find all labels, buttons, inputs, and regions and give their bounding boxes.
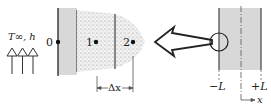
- node-2-label: 2: [123, 37, 130, 48]
- boundary-condition-label: T∞, h: [8, 32, 36, 42]
- magnify-arrow: [155, 27, 212, 56]
- node-1-label: 1: [86, 37, 93, 48]
- node-0-label: 0: [46, 37, 53, 48]
- wall-band: [58, 8, 77, 75]
- flow-arrows: [7, 48, 38, 74]
- diagram-canvas: T∞, h 0 1 2 Δx −L +L x: [0, 0, 271, 109]
- slab: [219, 8, 261, 70]
- plus-L-label: +L: [251, 81, 268, 92]
- diagram-graphics: [0, 0, 271, 109]
- minus-L-label: −L: [209, 81, 226, 92]
- x-axis-label: x: [257, 95, 263, 105]
- node-0-dot: [56, 40, 60, 44]
- x-axis: [241, 99, 255, 102]
- node-2-dot: [131, 40, 135, 44]
- node-1-dot: [94, 40, 98, 44]
- delta-x-label: Δx: [108, 83, 121, 93]
